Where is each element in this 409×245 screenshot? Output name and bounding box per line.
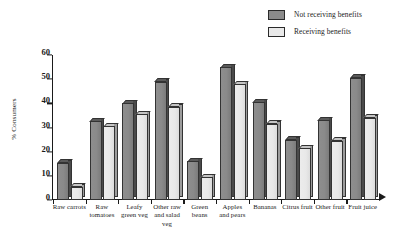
bar-front-face <box>253 102 265 200</box>
legend-label-receiving-benefits: Receiving benefits <box>294 27 351 37</box>
legend-swatch-light <box>268 27 285 37</box>
bar-receiving[interactable] <box>168 107 180 200</box>
bar-front-face <box>168 107 180 200</box>
bar-not-receiving[interactable] <box>187 161 199 200</box>
bar-group <box>249 55 282 200</box>
bar-not-receiving[interactable] <box>122 103 134 200</box>
bar-front-face <box>201 177 213 200</box>
bar-front-face <box>350 78 362 200</box>
bar-receiving[interactable] <box>71 187 83 200</box>
bar-receiving[interactable] <box>299 148 311 200</box>
bar-front-face <box>299 148 311 200</box>
bar-receiving[interactable] <box>103 126 115 200</box>
bar-group <box>86 55 119 200</box>
bar-front-face <box>318 120 330 200</box>
y-tickmark-10 <box>47 175 52 176</box>
bar-receiving[interactable] <box>136 114 148 200</box>
bar-front-face <box>220 67 232 200</box>
legend-label-not-receiving-benefits: Not receiving benefits <box>294 10 362 20</box>
bar-front-face <box>136 114 148 200</box>
bar-front-face <box>266 124 278 200</box>
bar-group <box>183 55 216 200</box>
bar-group <box>151 55 184 200</box>
bar-receiving[interactable] <box>234 84 246 200</box>
y-tickmark-0 <box>47 199 52 200</box>
chart-legend: Not receiving benefits Receiving benefit… <box>268 8 406 42</box>
legend-item-receiving-benefits: Receiving benefits <box>268 25 406 38</box>
bar-front-face <box>187 161 199 200</box>
bar-front-face <box>103 126 115 200</box>
bar-group <box>314 55 347 200</box>
bar-not-receiving[interactable] <box>318 120 330 200</box>
bar-front-face <box>331 141 343 200</box>
bar-front-face <box>364 118 376 200</box>
x-axis-arrow-icon <box>379 193 386 201</box>
bar-front-face <box>155 82 167 200</box>
bar-group <box>53 55 86 200</box>
bar-receiving[interactable] <box>331 141 343 200</box>
bar-group <box>118 55 151 200</box>
bar-not-receiving[interactable] <box>285 140 297 200</box>
bar-receiving[interactable] <box>364 118 376 200</box>
bar-receiving[interactable] <box>201 177 213 200</box>
bar-front-face <box>57 163 69 200</box>
bar-not-receiving[interactable] <box>90 121 102 200</box>
bar-front-face <box>71 187 83 200</box>
bar-not-receiving[interactable] <box>57 163 69 200</box>
bar-chart-figure: Not receiving benefits Receiving benefit… <box>0 0 409 245</box>
bar-group <box>216 55 249 200</box>
legend-item-not-receiving-benefits: Not receiving benefits <box>268 8 406 21</box>
x-axis-category-labels: Raw carrotsRawtomatoesLeafygreen vegOthe… <box>53 203 379 245</box>
bar-receiving[interactable] <box>266 124 278 200</box>
y-axis-label: % Consumers <box>10 89 18 149</box>
bar-not-receiving[interactable] <box>350 78 362 200</box>
bar-not-receiving[interactable] <box>220 67 232 200</box>
y-tickmark-40 <box>47 103 52 104</box>
bar-not-receiving[interactable] <box>155 82 167 200</box>
x-label-fruit-juice: Fruit juice <box>340 203 385 211</box>
bar-not-receiving[interactable] <box>253 102 265 200</box>
legend-swatch-dark <box>268 10 285 20</box>
bar-group <box>281 55 314 200</box>
y-tickmark-50 <box>47 79 52 80</box>
bar-front-face <box>285 140 297 200</box>
bar-front-face <box>122 103 134 200</box>
y-tickmark-60 <box>47 54 52 55</box>
bar-group <box>346 55 379 200</box>
y-tickmark-30 <box>47 127 52 128</box>
bar-front-face <box>90 121 102 200</box>
bar-front-face <box>234 84 246 200</box>
y-tickmark-20 <box>47 151 52 152</box>
plot-area <box>53 55 379 200</box>
